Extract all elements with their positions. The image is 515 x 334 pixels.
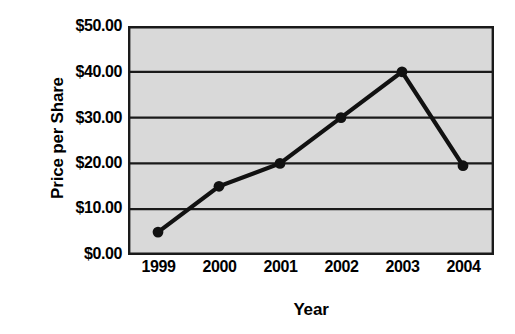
y-tick-label-10: $10.00 bbox=[36, 200, 122, 216]
x-tick-label-2003: 2003 bbox=[372, 258, 433, 286]
y-tick-label-30: $30.00 bbox=[36, 110, 122, 126]
data-point-2004 bbox=[458, 160, 469, 171]
x-tick-label-1999: 1999 bbox=[128, 258, 189, 286]
y-tick-label-0: $0.00 bbox=[36, 246, 122, 262]
x-axis-title: Year bbox=[128, 300, 494, 320]
data-point-2002 bbox=[336, 112, 347, 123]
data-point-2000 bbox=[214, 181, 225, 192]
data-point-2003 bbox=[397, 66, 408, 77]
plot-svg bbox=[128, 26, 494, 255]
x-tick-label-2002: 2002 bbox=[311, 258, 372, 286]
y-tick-label-40: $40.00 bbox=[36, 64, 122, 80]
x-axis-tick-labels: 1999 2000 2001 2002 2003 2004 bbox=[128, 258, 494, 286]
plot-area bbox=[128, 26, 494, 255]
data-point-1999 bbox=[153, 227, 164, 238]
data-point-2001 bbox=[275, 158, 286, 169]
y-axis-tick-labels: $50.00 $40.00 $30.00 $20.00 $10.00 $0.00 bbox=[34, 0, 122, 334]
line-chart-figure: Price per Share $50.00 $40.00 $30.00 $20… bbox=[0, 0, 515, 334]
y-tick-label-20: $20.00 bbox=[36, 155, 122, 171]
x-tick-label-2000: 2000 bbox=[189, 258, 250, 286]
y-tick-label-50: $50.00 bbox=[36, 18, 122, 34]
x-tick-label-2004: 2004 bbox=[433, 258, 494, 286]
x-tick-label-2001: 2001 bbox=[250, 258, 311, 286]
